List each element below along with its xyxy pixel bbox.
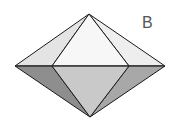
bipyramid-diagram: B xyxy=(0,0,177,120)
figure-label: B xyxy=(142,15,153,31)
